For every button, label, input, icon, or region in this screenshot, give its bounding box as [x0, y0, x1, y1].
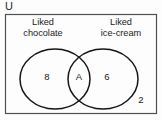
set-label-right-line2: ice-cream — [101, 28, 141, 38]
set-label-right-line1: Liked — [110, 17, 132, 27]
set-label-right: Liked ice-cream — [90, 17, 152, 39]
set-label-left: Liked chocolate — [14, 17, 72, 39]
set-label-left-line1: Liked — [32, 17, 54, 27]
venn-diagram-figure: U Liked chocolate Liked ice-cream 8 A 6 … — [0, 0, 162, 120]
region-value-outside: 2 — [134, 95, 148, 105]
region-value-right-only: 6 — [100, 72, 114, 82]
region-value-left-only: 8 — [40, 72, 54, 82]
region-value-intersection: A — [72, 72, 86, 82]
set-label-left-line2: chocolate — [23, 28, 62, 38]
